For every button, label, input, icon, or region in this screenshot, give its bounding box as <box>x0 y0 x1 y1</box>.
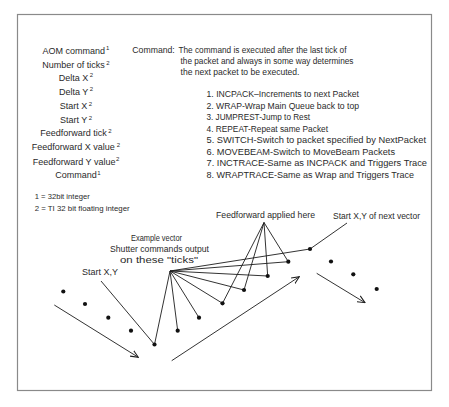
command-description-line-1: The command is executed after the last t… <box>179 45 348 55</box>
field-aom-command: AOM command1 <box>43 45 111 56</box>
command-description-line-2: the packet and always in some way determ… <box>181 56 354 66</box>
command-option-movebeam: 6. MOVEBEAM-Switch to MoveBeam Packets <box>207 147 396 157</box>
example-vector-label: Example vector <box>131 233 182 243</box>
example-vector-ticks-dot <box>266 274 270 278</box>
command-option-jumprest: 3. JUMPREST-Jump to Rest <box>207 112 311 122</box>
field-label: Number of ticks <box>42 60 105 70</box>
previous-vector-dot <box>83 302 87 306</box>
field-label: AOM command <box>43 46 106 56</box>
field-number-of-ticks: Number of ticks2 <box>42 60 110 71</box>
footnote-1: 1 = 32bit integer <box>35 192 91 201</box>
start-xy-label: Start X,Y <box>82 267 118 277</box>
shutter-commands-label: Shutter commands output <box>110 244 210 254</box>
previous-vector-dot <box>106 316 110 320</box>
example-vector-ticks-dot <box>152 342 156 346</box>
example-vector-ticks-dot <box>286 260 290 264</box>
example-vector-ticks-dot <box>197 316 201 320</box>
command-option-wrap: 2. WRAP-Wrap Main Queue back to top <box>207 101 360 111</box>
command-option-repeat: 4. REPEAT-Repeat same Packet <box>207 124 329 134</box>
field-label: Feedforward tick <box>40 128 107 138</box>
example-vector-ticks-dot <box>242 288 246 292</box>
next-vector-dot <box>329 259 333 263</box>
command-option-wraptrace: 8. WRAPTRACE-Same as Wrap and Triggers T… <box>207 170 415 180</box>
example-vector-ticks-dot <box>220 301 224 305</box>
example-vector-ticks-dot <box>176 329 180 333</box>
previous-vector-dot <box>61 289 65 293</box>
feedforward-applied-label: Feedforward applied here <box>216 210 315 220</box>
next-vector-dot <box>351 272 355 276</box>
field-feedforward-y-value: Feedforward Y value2 <box>33 156 120 167</box>
field-label: Delta X <box>59 73 89 83</box>
footnote-2: 2 = TI 32 bit floating integer <box>35 204 131 213</box>
ticks-label: on these "ticks" <box>120 255 198 265</box>
field-feedforward-x-value: Feedforward X value2 <box>32 142 121 153</box>
field-label: Start X <box>60 101 88 111</box>
start-next-vector-label: Start X,Y of next vector <box>333 211 420 221</box>
field-command: Command1 <box>55 170 101 181</box>
previous-vector-dot <box>129 329 133 333</box>
command-option-inctrace: 7. INCTRACE-Same as INCPACK and Triggers… <box>207 158 428 168</box>
next-vector-dot <box>375 287 379 291</box>
command-heading: Command: <box>132 45 175 55</box>
field-label: Command <box>55 170 97 180</box>
vector-packet-diagram: AOM command1 Number of ticks2 Delta X2 D… <box>0 0 449 407</box>
command-description-line-3: the next packet to be executed. <box>181 67 300 77</box>
example-vector-ticks-dot <box>308 247 312 251</box>
field-label: Start Y <box>60 115 87 125</box>
command-option-switch: 5. SWITCH-Switch to packet specified by … <box>207 135 427 145</box>
field-label: Feedforward X value <box>32 142 115 152</box>
field-label: Delta Y <box>59 87 88 97</box>
field-label: Feedforward Y value <box>33 157 116 167</box>
field-feedforward-tick: Feedforward tick2 <box>40 128 112 139</box>
command-option-incpack: 1. INCPACK–Increments to next Packet <box>207 89 360 99</box>
